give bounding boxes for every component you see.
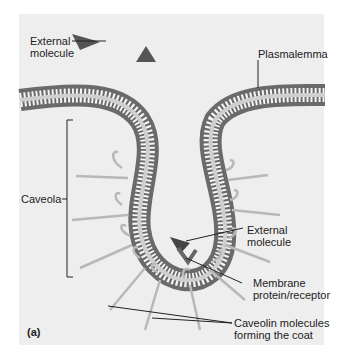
- label-plasmalemma: Plasmalemma: [258, 48, 328, 60]
- receptor-icon: [178, 248, 196, 262]
- label-line: Caveolin molecules: [234, 317, 329, 329]
- label-line: External: [247, 224, 291, 236]
- plasmalemma-membrane: [20, 95, 325, 280]
- external-molecule-icon: [136, 46, 156, 62]
- label-external-molecule: External molecule: [30, 35, 74, 59]
- label-line: forming the coat: [234, 329, 329, 341]
- label-membrane-protein: Membrane protein/receptor: [253, 277, 330, 301]
- label-caveola: Caveola: [21, 193, 61, 205]
- panel-label: (a): [27, 326, 40, 338]
- label-line: Membrane: [253, 277, 330, 289]
- label-external-molecule-inner: External molecule: [247, 224, 291, 248]
- external-molecule-icon: [72, 34, 100, 50]
- label-caveolin: Caveolin molecules forming the coat: [234, 317, 329, 341]
- label-line: molecule: [247, 236, 291, 248]
- label-line: External: [30, 35, 74, 47]
- label-line: protein/receptor: [253, 289, 330, 301]
- label-line: molecule: [30, 47, 74, 59]
